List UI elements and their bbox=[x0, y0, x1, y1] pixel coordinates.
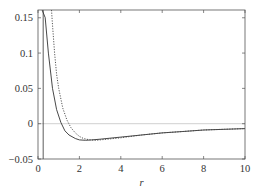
solid-curve bbox=[42, 10, 245, 140]
x-axis-label: r bbox=[139, 177, 144, 188]
y-tick-label: 0.05 bbox=[15, 83, 33, 94]
x-tick-label: 4 bbox=[118, 163, 124, 174]
x-tick-label: 8 bbox=[201, 163, 206, 174]
x-tick-label: 10 bbox=[240, 163, 251, 174]
line-chart: 0246810 −0.0500.050.10.15 r bbox=[0, 0, 259, 188]
x-tick-label: 2 bbox=[77, 163, 82, 174]
y-tick-label: −0.05 bbox=[9, 154, 33, 165]
x-axis-ticks: 0246810 bbox=[35, 10, 250, 174]
x-tick-label: 6 bbox=[160, 163, 165, 174]
data-series bbox=[42, 10, 245, 159]
dotted-curve bbox=[52, 10, 246, 140]
x-tick-label: 0 bbox=[35, 163, 40, 174]
y-axis-ticks: −0.0500.050.10.15 bbox=[9, 12, 245, 164]
y-tick-label: 0.15 bbox=[15, 12, 33, 23]
y-tick-label: 0 bbox=[28, 118, 33, 129]
y-tick-label: 0.1 bbox=[20, 48, 33, 59]
plot-frame bbox=[38, 10, 245, 159]
